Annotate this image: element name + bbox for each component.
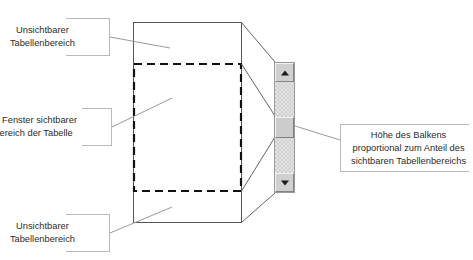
callout-top-hidden-area: Unsichtbarer Tabellenbereich — [66, 18, 110, 56]
callout-bottom-hidden-area-text: Unsichtbarer Tabellenbereich — [10, 220, 75, 246]
callout-line: Tabellenbereich — [10, 37, 75, 50]
callout-visible-area: Im Fenster sichtbarer Bereich der Tabell… — [82, 108, 112, 146]
callout-line: Unsichtbarer — [10, 220, 75, 233]
leader-line-visible — [112, 98, 172, 127]
callout-top-hidden-area-text: Unsichtbarer Tabellenbereich — [10, 24, 75, 50]
visible-area-outline — [134, 64, 241, 191]
leader-line-thumb — [295, 126, 340, 140]
callout-line: Tabellenbereich — [10, 233, 75, 246]
leader-line-bottom-hidden — [110, 207, 172, 233]
diagram-canvas: Unsichtbarer Tabellenbereich Im Fenster … — [0, 0, 473, 260]
scrollbar[interactable] — [274, 62, 295, 193]
projection-line-bottom — [242, 193, 276, 223]
scrollbar-thumb[interactable] — [275, 117, 294, 138]
callout-line: Bereich der Tabelle — [0, 127, 77, 140]
callout-line: proportional zum Anteil des — [351, 142, 466, 155]
table-outline — [134, 23, 242, 223]
callout-line: Höhe des Balkens — [351, 129, 466, 142]
projection-line-top — [242, 23, 276, 63]
callout-visible-area-text: Im Fenster sichtbarer Bereich der Tabell… — [0, 114, 77, 140]
callout-bottom-hidden-area: Unsichtbarer Tabellenbereich — [66, 214, 110, 252]
scrollbar-up-button[interactable] — [275, 63, 294, 82]
callout-line: sichtbaren Tabellenbereichs — [351, 155, 466, 168]
triangle-down-icon — [281, 180, 289, 185]
callout-line: Unsichtbarer — [10, 24, 75, 37]
scrollbar-down-button[interactable] — [275, 173, 294, 192]
projection-line-visible-bottom — [242, 137, 276, 191]
triangle-up-icon — [281, 70, 289, 75]
callout-thumb-height-text: Höhe des Balkens proportional zum Anteil… — [351, 129, 466, 168]
callout-line: Im Fenster sichtbarer — [0, 114, 77, 127]
projection-line-visible-top — [242, 64, 276, 116]
leader-line-top-hidden — [110, 37, 170, 48]
callout-thumb-height: Höhe des Balkens proportional zum Anteil… — [340, 124, 469, 172]
